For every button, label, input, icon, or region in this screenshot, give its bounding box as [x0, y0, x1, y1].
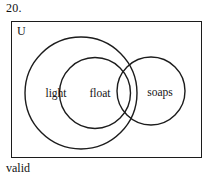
diagram-canvas: 20. U light float soaps valid: [0, 0, 213, 181]
set-label-float: float: [89, 87, 110, 100]
set-label-soaps: soaps: [147, 86, 173, 99]
circle-light: [25, 37, 137, 149]
answer-caption: valid: [6, 161, 30, 175]
set-label-light: light: [45, 87, 66, 100]
